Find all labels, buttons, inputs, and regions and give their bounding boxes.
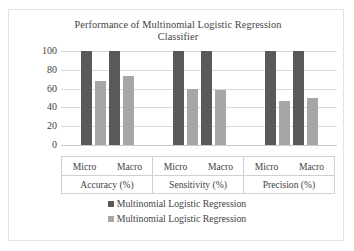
y-axis-tick: 80	[47, 65, 57, 75]
x-axis-sublabel: Macro	[107, 157, 152, 175]
bar-group-precision	[245, 51, 337, 145]
x-axis-subrow: Micro Macro	[153, 157, 243, 176]
legend-label: Multinomial Logistic Regression	[117, 214, 247, 224]
chart-title: Performance of Multinomial Logistic Regr…	[39, 19, 317, 43]
chart-container: Performance of Multinomial Logistic Regr…	[8, 9, 344, 241]
plot-canvas	[61, 51, 337, 145]
x-axis-group-accuracy: Micro Macro Accuracy (%)	[62, 157, 153, 194]
bar[interactable]	[201, 51, 212, 145]
x-axis-group-label: Precision (%)	[244, 176, 334, 194]
x-axis-subrow: Micro Macro	[62, 157, 152, 176]
axis-baseline	[61, 145, 337, 146]
legend-item[interactable]: Multinomial Logistic Regression	[108, 214, 247, 224]
x-axis: Micro Macro Accuracy (%) Micro Macro Sen…	[61, 156, 335, 194]
x-axis-group-label: Sensitivity (%)	[153, 176, 243, 194]
x-axis-group-label: Accuracy (%)	[62, 176, 152, 194]
x-axis-sublabel: Micro	[153, 157, 198, 175]
bar[interactable]	[293, 51, 304, 145]
bar[interactable]	[95, 81, 106, 145]
chart-title-line-1: Performance of Multinomial Logistic Regr…	[39, 19, 317, 31]
bar[interactable]	[187, 89, 198, 145]
y-axis-tick: 20	[47, 121, 57, 131]
legend-swatch-icon	[108, 201, 114, 207]
y-axis: 100 80 60 40 20 0	[19, 51, 57, 145]
y-axis-tick: 0	[52, 140, 57, 150]
bar[interactable]	[123, 76, 134, 145]
x-axis-sublabel: Macro	[289, 157, 334, 175]
x-axis-subrow: Micro Macro	[244, 157, 334, 176]
y-axis-tick: 40	[47, 102, 57, 112]
bar[interactable]	[81, 51, 92, 145]
x-axis-sublabel: Micro	[244, 157, 289, 175]
bar[interactable]	[307, 98, 318, 145]
legend-swatch-icon	[108, 216, 114, 222]
x-axis-group-precision: Micro Macro Precision (%)	[244, 157, 335, 194]
bar-group-sensitivity	[153, 51, 245, 145]
bar[interactable]	[279, 101, 290, 145]
chart-legend: Multinomial Logistic Regression Multinom…	[9, 199, 345, 224]
x-axis-group-sensitivity: Micro Macro Sensitivity (%)	[153, 157, 244, 194]
bar-series-layer	[61, 51, 337, 145]
y-axis-tick: 100	[42, 46, 57, 56]
chart-title-line-2: Classifier	[39, 31, 317, 43]
x-axis-sublabel: Micro	[62, 157, 107, 175]
bar[interactable]	[109, 51, 120, 145]
bar[interactable]	[265, 51, 276, 145]
legend-label: Multinomial Logistic Regression	[117, 199, 247, 209]
x-axis-sublabel: Macro	[198, 157, 243, 175]
bar[interactable]	[173, 51, 184, 145]
plot-area: 100 80 60 40 20 0	[9, 51, 345, 156]
legend-item[interactable]: Multinomial Logistic Regression	[108, 199, 247, 209]
y-axis-tick: 60	[47, 84, 57, 94]
bar[interactable]	[215, 90, 226, 145]
bar-group-accuracy	[61, 51, 153, 145]
